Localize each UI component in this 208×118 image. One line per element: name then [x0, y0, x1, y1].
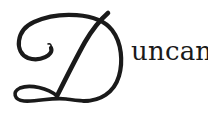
logo-wordmark-text: uncan — [131, 36, 208, 66]
duncan-logo: uncan — [0, 0, 208, 118]
script-d-initial-icon — [0, 0, 130, 118]
